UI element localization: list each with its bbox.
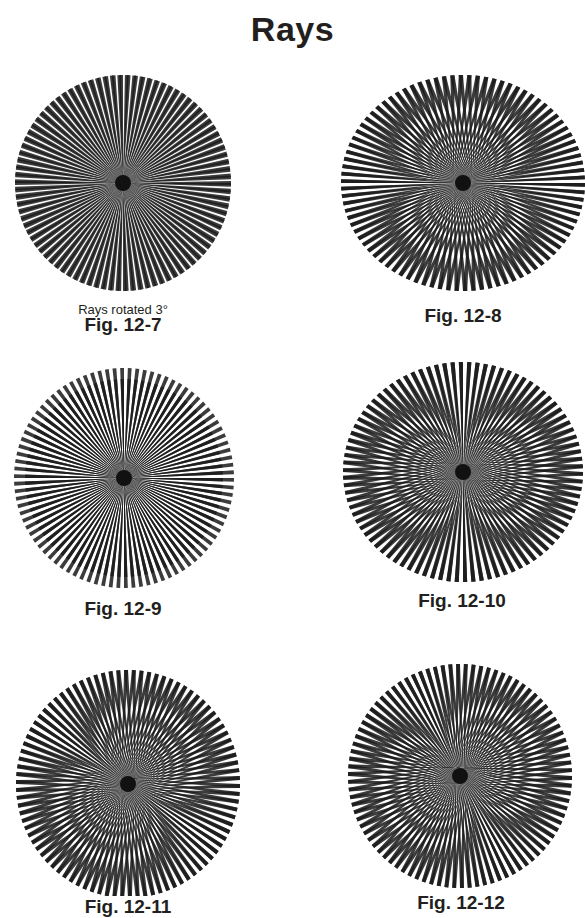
ray-pattern-illustration	[12, 366, 236, 592]
figure-12-9-caption: Fig. 12-9	[43, 598, 203, 620]
figure-12-7-rays-rotated	[12, 72, 234, 294]
ray-pattern-illustration	[12, 72, 234, 294]
figure-12-10-moire	[340, 360, 585, 586]
figure-12-8-caption: Fig. 12-8	[383, 305, 543, 327]
ray-pattern-illustration	[344, 660, 574, 890]
figure-12-12-caption: Fig. 12-12	[381, 892, 541, 914]
figure-12-9-moire	[12, 366, 236, 592]
figure-12-7-caption: Fig. 12-7	[43, 314, 203, 336]
figure-12-12-moire	[344, 660, 574, 890]
ray-pattern-illustration	[14, 662, 244, 896]
figure-12-8-moire	[340, 72, 585, 294]
figure-12-10-caption: Fig. 12-10	[382, 590, 542, 612]
page-title: Rays	[0, 10, 585, 49]
ray-pattern-illustration	[340, 360, 585, 586]
figure-12-11-caption: Fig. 12-11	[48, 896, 208, 918]
figure-12-11-moire	[14, 662, 244, 896]
ray-pattern-illustration	[340, 72, 585, 294]
